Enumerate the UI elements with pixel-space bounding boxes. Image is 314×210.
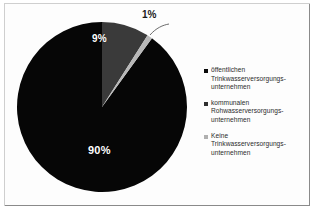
legend-label-line-2: Trinkwasserversorgungs- (211, 140, 286, 149)
legend-swatch-icon (204, 135, 208, 139)
legend-label-line-2: Trinkwasserversorgungs- (211, 75, 286, 84)
pie-label-9: 9% (92, 33, 107, 44)
legend-swatch-icon (204, 69, 208, 73)
pie-svg (17, 18, 189, 198)
legend-item-kommunale[interactable]: kommunalen Rohwasserversorgungs- unterne… (204, 99, 312, 125)
legend-swatch-icon (204, 102, 208, 106)
legend-label: öffentlichen Trinkwasserversorgungs- unt… (211, 66, 286, 92)
legend-label-line-3: unternehmen (211, 83, 286, 92)
pie-label-90: 90% (88, 144, 111, 156)
legend-label-line-3: unternehmen (211, 149, 286, 158)
legend-label-line-2: Rohwasserversorgungs- (211, 107, 284, 116)
legend-label: kommunalen Rohwasserversorgungs- unterne… (211, 99, 284, 125)
chart-frame-border: 90% 9% 1% öffentlichen Trinkwasserversor… (4, 3, 310, 206)
legend-label-line-3: unternehmen (211, 116, 284, 125)
legend-item-oeffentliche[interactable]: öffentlichen Trinkwasserversorgungs- unt… (204, 66, 312, 92)
leader-line-1-percent (150, 24, 169, 35)
legend-label: Keine Trinkwasserversorgungs- unternehme… (211, 132, 286, 158)
chart-legend: öffentlichen Trinkwasserversorgungs- unt… (204, 66, 312, 164)
legend-label-line-1: öffentlichen (211, 66, 286, 75)
legend-item-keine[interactable]: Keine Trinkwasserversorgungs- unternehme… (204, 132, 312, 158)
legend-label-line-1: Keine (211, 132, 286, 141)
pie-chart-figure: 90% 9% 1% öffentlichen Trinkwasserversor… (0, 0, 314, 210)
legend-label-line-1: kommunalen (211, 99, 284, 108)
pie-plot-area: 90% 9% (17, 18, 189, 198)
pie-label-1: 1% (142, 9, 156, 20)
